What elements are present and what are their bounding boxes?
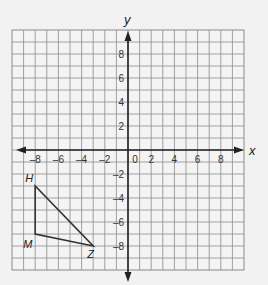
x-tick-label: –8 bbox=[30, 154, 42, 165]
y-axis-down-arrow-icon bbox=[125, 272, 132, 282]
vertex-label-h: H bbox=[25, 172, 33, 184]
y-axis-label: y bbox=[123, 12, 132, 27]
y-tick-label: –8 bbox=[113, 241, 125, 252]
x-tick-label: –4 bbox=[76, 154, 88, 165]
x-tick-label: –2 bbox=[99, 154, 111, 165]
x-tick-label: 8 bbox=[218, 154, 224, 165]
x-tick-label: –6 bbox=[53, 154, 65, 165]
y-tick-label: –2 bbox=[113, 169, 125, 180]
x-tick-label: 2 bbox=[148, 154, 154, 165]
y-tick-label: 4 bbox=[118, 97, 124, 108]
vertex-label-m: M bbox=[23, 238, 33, 250]
y-tick-label: 2 bbox=[118, 121, 124, 132]
x-tick-label: 4 bbox=[172, 154, 178, 165]
vertex-label-z: Z bbox=[86, 248, 95, 260]
x-tick-label: 6 bbox=[195, 154, 201, 165]
y-tick-label: –4 bbox=[113, 193, 125, 204]
x-tick-label: 0 bbox=[132, 154, 138, 165]
y-tick-label: –6 bbox=[113, 217, 125, 228]
y-tick-label: 6 bbox=[118, 73, 124, 84]
x-axis-label: x bbox=[248, 143, 256, 158]
y-tick-label: 8 bbox=[118, 49, 124, 60]
coordinate-plane: xy–8–6–4–2024688642–2–4–6–8HMZ bbox=[0, 0, 268, 285]
